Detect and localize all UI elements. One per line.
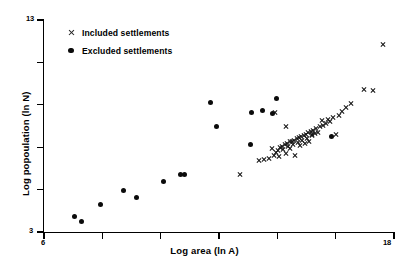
x-axis-tick bbox=[335, 232, 336, 239]
y-axis-min-label: 3 bbox=[29, 227, 33, 235]
data-point-excluded bbox=[249, 110, 254, 115]
data-point-included bbox=[306, 139, 312, 145]
data-point-included bbox=[348, 101, 354, 107]
y-axis-max-label: 13 bbox=[26, 15, 34, 23]
data-point-excluded bbox=[182, 172, 187, 177]
data-point-excluded bbox=[270, 111, 275, 116]
data-point-included bbox=[237, 171, 243, 177]
y-axis-tick bbox=[37, 104, 44, 105]
y-axis-tick bbox=[37, 19, 44, 20]
x-axis-tick bbox=[218, 232, 219, 239]
data-point-excluded bbox=[121, 188, 126, 193]
data-point-excluded bbox=[329, 134, 334, 139]
data-point-included bbox=[309, 132, 315, 138]
scatter-chart-figure: 13 3 6 18 Log area (ln A) Log popoulatio… bbox=[0, 0, 409, 267]
data-point-included bbox=[380, 41, 386, 47]
data-point-included bbox=[292, 152, 298, 158]
x-axis-tick bbox=[277, 232, 278, 239]
data-point-excluded bbox=[260, 108, 265, 113]
y-axis-title: Log popoulation (ln N) bbox=[20, 91, 31, 196]
data-point-included bbox=[370, 87, 376, 93]
data-point-excluded bbox=[72, 214, 77, 219]
data-point-excluded bbox=[79, 219, 84, 224]
plot-area bbox=[44, 20, 394, 232]
y-axis-tick bbox=[37, 62, 44, 63]
data-point-excluded bbox=[274, 96, 279, 101]
data-point-included bbox=[276, 154, 282, 160]
x-axis-tick bbox=[393, 232, 394, 239]
data-point-excluded bbox=[98, 202, 103, 207]
data-point-excluded bbox=[214, 124, 219, 129]
data-point-included bbox=[361, 87, 367, 93]
data-point-excluded bbox=[134, 195, 139, 200]
data-point-included bbox=[333, 132, 339, 138]
y-axis-tick bbox=[37, 189, 44, 190]
data-point-excluded bbox=[161, 179, 166, 184]
data-point-excluded bbox=[248, 142, 253, 147]
y-axis-tick bbox=[37, 147, 44, 148]
x-axis-tick bbox=[160, 232, 161, 239]
data-point-excluded bbox=[208, 100, 213, 105]
data-point-included bbox=[283, 124, 289, 130]
x-axis-tick bbox=[102, 232, 103, 239]
x-axis-title: Log area (ln A) bbox=[0, 245, 409, 256]
